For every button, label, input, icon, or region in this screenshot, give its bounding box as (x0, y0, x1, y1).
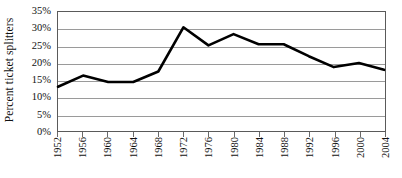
x-axis-tick-label: 1952 (53, 137, 64, 158)
x-axis-tick-label: 1996 (330, 137, 341, 158)
x-axis-tick-label: 2004 (381, 137, 392, 158)
x-axis-tick-label: 1964 (128, 137, 139, 158)
x-axis-tick-label: 1968 (154, 137, 165, 158)
x-axis-tick-label: 1988 (280, 137, 291, 158)
y-axis-title-text: Percent ticket splitters (3, 18, 15, 123)
plot-area (57, 11, 386, 132)
series-line-chart (58, 12, 385, 131)
x-axis-tick-label: 1976 (204, 137, 215, 158)
y-axis-tick-label: 15% (32, 75, 51, 86)
y-axis-tick-label: 0% (37, 127, 51, 138)
x-axis-tick-label: 1992 (305, 137, 316, 158)
chart-figure: Percent ticket splitters 0%5%10%15%20%25… (0, 0, 402, 178)
y-axis-tick-label: 10% (32, 92, 51, 103)
y-axis-tick-label: 5% (37, 109, 51, 120)
y-axis-tick-label: 30% (32, 23, 51, 34)
x-axis-tick-label: 1980 (229, 137, 240, 158)
y-axis-tick-label: 35% (32, 6, 51, 17)
y-axis-tick-label: 20% (32, 58, 51, 69)
x-axis-tick-label: 2000 (356, 137, 367, 158)
y-axis-tick-label: 25% (32, 40, 51, 51)
series-line-percent-ticket-splitters (58, 27, 384, 87)
x-axis-tick-label: 1984 (255, 137, 266, 158)
x-axis-tick-label: 1972 (179, 137, 190, 158)
x-axis-tick-label: 1960 (103, 137, 114, 158)
x-axis-tick-label: 1956 (78, 137, 89, 158)
y-axis-tick-labels: 0%5%10%15%20%25%30%35% (18, 0, 54, 140)
y-axis-title: Percent ticket splitters (0, 0, 18, 140)
x-axis-tick-labels: 1952195619601964196819721976198019841988… (57, 137, 386, 178)
